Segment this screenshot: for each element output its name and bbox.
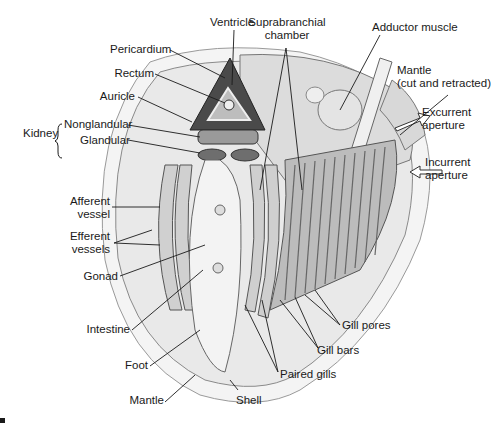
label-suprabranchial-chamber: Suprabranchialchamber (247, 16, 327, 42)
label-afferent-vessel: Afferentvessel (60, 195, 110, 221)
intestine-section (213, 263, 223, 273)
rectum-shape (224, 100, 234, 110)
label-intestine: Intestine (80, 323, 130, 336)
clam-anatomy-diagram: Ventricle Suprabranchialchamber Adductor… (0, 0, 501, 424)
label-kidney: Kidney (23, 127, 58, 140)
corner-mark (0, 418, 5, 423)
label-mantle-cut-retracted: Mantle(cut and retracted) (397, 64, 491, 90)
gonad-nucleus (215, 205, 225, 215)
label-gill-pores: Gill pores (342, 319, 391, 332)
label-pericardium: Pericardium (110, 43, 170, 56)
label-excurrent-aperture: Excurrentaperture (422, 106, 471, 132)
label-glandular: Glandular (80, 134, 130, 147)
label-incurrent-aperture: Incurrentaperture (425, 156, 470, 182)
kidney-shape (198, 130, 258, 144)
label-foot: Foot (110, 359, 148, 372)
label-adductor-muscle: Adductor muscle (372, 21, 458, 34)
label-efferent-vessels: Efferentvessels (60, 230, 110, 256)
label-shell: Shell (236, 394, 262, 407)
label-nonglandular: Nonglandular (64, 118, 132, 131)
label-mantle: Mantle (120, 394, 164, 407)
label-auricle: Auricle (95, 90, 135, 103)
label-paired-gills: Paired gills (280, 368, 336, 381)
label-gonad: Gonad (70, 270, 118, 283)
label-rectum: Rectum (110, 67, 154, 80)
label-gill-bars: Gill bars (317, 344, 359, 357)
